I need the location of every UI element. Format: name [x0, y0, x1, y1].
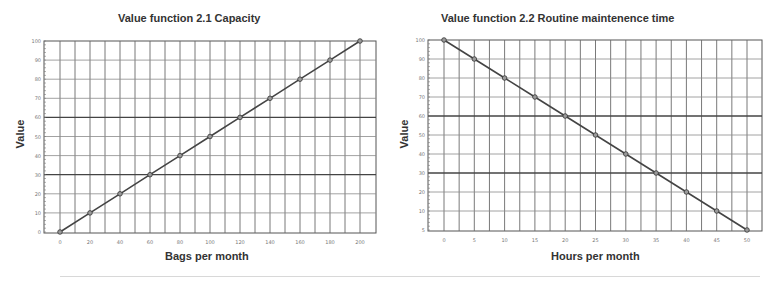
data-point-marker — [208, 134, 213, 139]
x-tick-label: 10 — [501, 237, 507, 243]
x-tick-label: 30 — [623, 237, 629, 243]
x-tick-label: 15 — [532, 237, 538, 243]
y-tick-label: 50 — [419, 132, 425, 138]
data-point-marker — [328, 58, 333, 63]
data-point-marker — [593, 133, 598, 138]
x-tick-label: 20 — [87, 239, 93, 245]
y-tick-label: 90 — [419, 56, 425, 62]
y-tick-label: 20 — [419, 189, 425, 195]
data-point-marker — [178, 153, 183, 158]
y-tick-label: 90 — [35, 57, 41, 63]
data-point-marker — [563, 114, 568, 119]
y-tick-label: 80 — [35, 76, 41, 82]
y-tick-label: 70 — [35, 95, 41, 101]
chart-capacity: Value function 2.1 Capacity Value Bags p… — [0, 0, 384, 281]
x-tick-label: 50 — [744, 237, 750, 243]
y-tick-label: 10 — [419, 208, 425, 214]
y-tick-label: 60 — [35, 114, 41, 120]
x-tick-label: 80 — [177, 239, 183, 245]
x-tick-label: 40 — [683, 237, 689, 243]
data-point-marker — [358, 39, 363, 44]
x-tick-label: 35 — [653, 237, 659, 243]
data-point-marker — [745, 228, 750, 233]
y-tick-label: 60 — [419, 113, 425, 119]
x-tick-label: 140 — [265, 239, 275, 245]
y-tick-label: 70 — [419, 94, 425, 100]
x-tick-label: 120 — [235, 239, 245, 245]
data-point-marker — [442, 38, 447, 43]
x-tick-label: 180 — [325, 239, 335, 245]
y-tick-label: 50 — [35, 134, 41, 140]
x-tick-label: 160 — [295, 239, 305, 245]
y-tick-label: 30 — [35, 172, 41, 178]
y-tick-label: 5 — [422, 227, 425, 233]
data-point-marker — [88, 211, 93, 216]
x-tick-label: 0 — [58, 239, 61, 245]
y-tick-label: 100 — [415, 37, 425, 43]
data-point-marker — [58, 230, 63, 235]
data-point-marker — [533, 95, 538, 100]
chart-maintenance-time: Value function 2.2 Routine maintenence t… — [384, 0, 768, 281]
data-point-marker — [472, 57, 477, 62]
divider — [60, 276, 760, 277]
plot-area: 5102030405060708090100051015202530354045… — [384, 0, 768, 281]
data-point-marker — [148, 172, 153, 177]
x-tick-label: 0 — [442, 237, 445, 243]
x-tick-label: 5 — [473, 237, 476, 243]
data-point-marker — [298, 77, 303, 82]
y-tick-label: 0 — [38, 229, 41, 235]
plot-area: 0102030405060708090100020406080100120140… — [0, 0, 384, 281]
x-tick-label: 25 — [592, 237, 598, 243]
y-tick-label: 20 — [35, 191, 41, 197]
data-point-marker — [684, 190, 689, 195]
y-tick-label: 40 — [35, 153, 41, 159]
x-tick-label: 40 — [117, 239, 123, 245]
data-point-marker — [654, 171, 659, 176]
x-tick-label: 200 — [355, 239, 365, 245]
x-tick-label: 100 — [205, 239, 215, 245]
x-tick-label: 60 — [147, 239, 153, 245]
x-tick-label: 45 — [714, 237, 720, 243]
data-point-marker — [268, 96, 273, 101]
y-tick-label: 10 — [35, 210, 41, 216]
data-point-marker — [624, 152, 629, 157]
x-tick-label: 20 — [562, 237, 568, 243]
data-point-marker — [118, 192, 123, 197]
data-point-marker — [714, 209, 719, 214]
y-tick-label: 40 — [419, 151, 425, 157]
data-point-marker — [502, 76, 507, 81]
y-tick-label: 100 — [31, 38, 41, 44]
y-tick-label: 80 — [419, 75, 425, 81]
y-tick-label: 30 — [419, 170, 425, 176]
data-point-marker — [238, 115, 243, 120]
